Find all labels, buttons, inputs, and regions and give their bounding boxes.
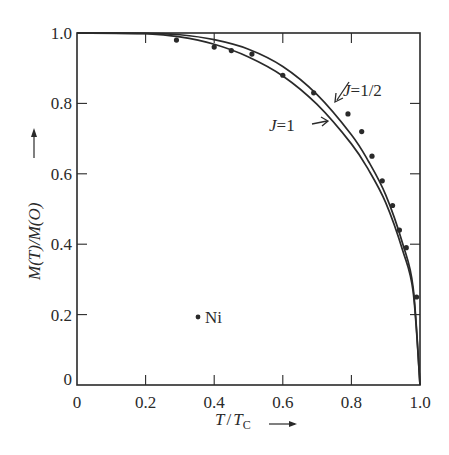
ni-data-point (380, 178, 385, 183)
ni-marker-icon (196, 315, 201, 320)
x-axis-label: T/TC (215, 410, 297, 432)
y-tick-label: 0.4 (51, 235, 73, 254)
y-tick-label: 0.8 (51, 94, 72, 113)
x-axis-arrow-icon (269, 421, 297, 427)
ni-data-point (404, 245, 409, 250)
ni-data-point (359, 129, 364, 134)
y-tick-label: 0 (64, 370, 73, 389)
y-axis-arrow-icon (31, 128, 37, 158)
y-tick-label: 0.6 (51, 165, 72, 184)
annotation-j-one: J=1 (269, 116, 295, 135)
x-tick-label: 0.2 (135, 393, 156, 412)
x-tick-label: 0.8 (341, 393, 362, 412)
svg-text:M(T)/M(O): M(T)/M(O) (25, 202, 44, 281)
x-tick-label: 1.0 (409, 393, 430, 412)
x-tick-label: 0.6 (272, 393, 293, 412)
y-tick-label: 0.2 (51, 306, 72, 325)
ni-data-point (280, 73, 285, 78)
x-tick-label: 0 (73, 393, 82, 412)
ni-legend-label: Ni (205, 308, 222, 327)
ni-data-point (212, 44, 217, 49)
ni-data-point (390, 203, 395, 208)
ni-data-point (414, 294, 419, 299)
y-axis-label: M(T)/M(O) (25, 128, 44, 281)
svg-text:T/TC: T/TC (215, 410, 251, 432)
y-tick-label: 1.0 (51, 24, 72, 43)
magnetization-chart: 00.20.40.60.81.000.20.40.60.81.0 J=1/2 J… (0, 0, 449, 455)
ni-data-point (174, 37, 179, 42)
arrow-j-one-icon (312, 117, 328, 126)
ni-data-point (345, 111, 350, 116)
ni-data-point (311, 90, 316, 95)
ni-data-point (249, 52, 254, 57)
annotation-j-half: J=1/2 (343, 81, 382, 100)
ni-data-point (229, 48, 234, 53)
ni-data-point (369, 154, 374, 159)
ni-data-point (397, 228, 402, 233)
